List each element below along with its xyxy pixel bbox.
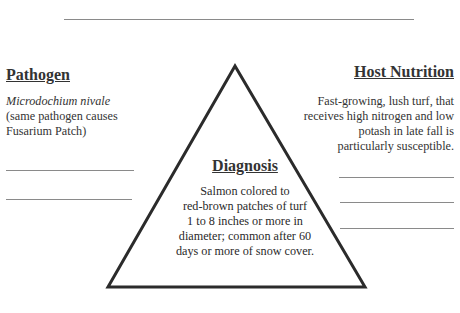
pathogen-organism: Microdochium nivale	[6, 94, 166, 109]
host-blank-line-1[interactable]	[339, 177, 454, 178]
diagnosis-heading: Diagnosis	[160, 157, 330, 175]
diagnosis-description: Salmon colored to red-brown patches of t…	[160, 184, 330, 259]
diagnosis-line-2: red-brown patches of turf	[160, 199, 330, 214]
pathogen-line-3: Fusarium Patch)	[6, 124, 166, 139]
host-nutrition-description: Fast-growing, lush turf, that receives h…	[284, 94, 454, 154]
pathogen-heading: Pathogen	[6, 66, 70, 84]
pathogen-line-2: (same pathogen causes	[6, 109, 166, 124]
diagnosis-line-5: days or more of snow cover.	[160, 244, 330, 259]
host-blank-line-3[interactable]	[340, 228, 454, 229]
diagnosis-line-1: Salmon colored to	[160, 184, 330, 199]
host-blank-line-2[interactable]	[340, 202, 454, 203]
host-line-1: Fast-growing, lush turf, that	[284, 94, 454, 109]
host-nutrition-heading: Host Nutrition	[354, 63, 454, 81]
diagnosis-line-4: diameter; common after 60	[160, 229, 330, 244]
pathogen-blank-line-2[interactable]	[6, 199, 132, 200]
pathogen-blank-line-1[interactable]	[6, 170, 134, 171]
pathogen-description: Microdochium nivale (same pathogen cause…	[6, 94, 166, 139]
host-line-2: receives high nitrogen and low	[284, 109, 454, 124]
host-line-3: potash in late fall is	[284, 124, 454, 139]
host-line-4: particularly susceptible.	[284, 139, 454, 154]
diagnosis-line-3: 1 to 8 inches or more in	[160, 214, 330, 229]
